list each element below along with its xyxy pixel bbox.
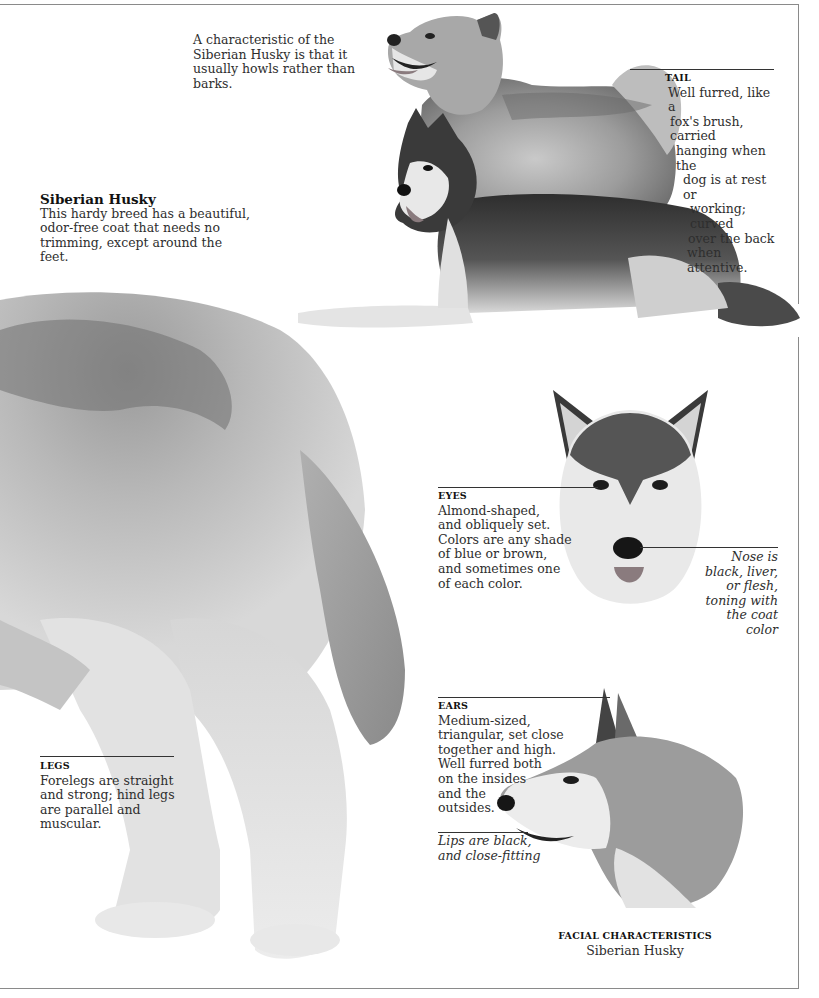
eyes-line: Colors are any shade: [438, 533, 588, 548]
legs-line: and strong; hind legs: [40, 788, 180, 803]
page-frame-right-lower: [798, 337, 799, 989]
facial-caption-subtitle: Siberian Husky: [586, 943, 683, 958]
nose-leader-line: [640, 547, 778, 548]
breed-description-block: Siberian Husky This hardy breed has a be…: [40, 192, 250, 265]
tail-line: fox's brush, carried: [630, 115, 776, 144]
tail-annotation: TAIL Well furred, like a fox's brush, ca…: [630, 71, 776, 275]
nose-line: the coat: [680, 608, 778, 623]
nose-line: or flesh,: [680, 579, 778, 594]
tail-line: working; curved: [630, 202, 776, 231]
ears-line: Well furred both: [438, 757, 603, 772]
ears-heading: EARS: [438, 699, 603, 714]
ears-leader-line: [438, 697, 610, 698]
facial-caption: FACIAL CHARACTERISTICS Siberian Husky: [545, 929, 725, 958]
nose-line: color: [680, 623, 778, 638]
ears-line: Medium-sized,: [438, 714, 603, 729]
eyes-line: Almond-shaped,: [438, 504, 588, 519]
tail-leader-line: [630, 69, 774, 70]
tail-heading: TAIL: [630, 71, 776, 86]
intro-caption-text: A characteristic of the Siberian Husky i…: [193, 32, 355, 91]
facial-caption-heading: FACIAL CHARACTERISTICS: [545, 929, 725, 944]
ears-line: outsides.: [438, 801, 603, 816]
eyes-line: and obliquely set.: [438, 518, 588, 533]
legs-annotation: LEGS Forelegs are straight and strong; h…: [40, 759, 180, 832]
tail-line: dog is at rest or: [630, 173, 776, 202]
ears-line: together and high.: [438, 743, 603, 758]
nose-line: toning with: [680, 594, 778, 609]
nose-annotation: Nose is black, liver, or flesh, toning w…: [680, 550, 778, 638]
eyes-line: of each color.: [438, 577, 588, 592]
hindquarters-photo: [0, 290, 410, 980]
legs-heading: LEGS: [40, 759, 180, 774]
page-frame-bottom: [0, 988, 799, 989]
eyes-leader-line: [438, 487, 598, 488]
tail-line: Well furred, like a: [630, 86, 776, 115]
ears-annotation: EARS Medium-sized, triangular, set close…: [438, 699, 603, 816]
nose-line: Nose is: [680, 550, 778, 565]
legs-leader-line: [40, 756, 174, 757]
breed-title: Siberian Husky: [40, 192, 250, 207]
tail-line: when attentive.: [630, 246, 776, 275]
eyes-line: and sometimes one: [438, 562, 588, 577]
lips-line: and close-fitting: [438, 849, 548, 864]
ears-line: triangular, set close: [438, 728, 603, 743]
page-frame-top: [0, 4, 798, 5]
eyes-annotation: EYES Almond-shaped, and obliquely set. C…: [438, 489, 588, 591]
legs-line: muscular.: [40, 817, 180, 832]
lips-line: Lips are black,: [438, 834, 548, 849]
legs-line: Forelegs are straight: [40, 774, 180, 789]
lips-annotation: Lips are black, and close-fitting: [438, 834, 548, 863]
tail-line: over the back: [630, 232, 776, 247]
ears-line: and the: [438, 787, 603, 802]
eyes-line: of blue or brown,: [438, 547, 588, 562]
breed-description: This hardy breed has a beautiful, odor-f…: [40, 206, 250, 265]
intro-caption: A characteristic of the Siberian Husky i…: [193, 33, 378, 91]
tail-line: hanging when the: [630, 144, 776, 173]
eyes-heading: EYES: [438, 489, 588, 504]
legs-line: are parallel and: [40, 803, 180, 818]
ears-line: on the insides: [438, 772, 603, 787]
nose-line: black, liver,: [680, 565, 778, 580]
